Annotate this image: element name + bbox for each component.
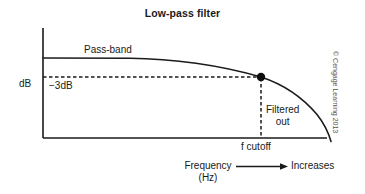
frequency-arrow-head-icon (280, 163, 288, 170)
response-curve (43, 58, 331, 142)
minus-3db-label: −3dB (49, 80, 73, 91)
f-cutoff-label: f cutoff (241, 141, 271, 152)
increases-label: Increases (291, 160, 334, 171)
x-axis-label: Frequency (Hz) (182, 160, 234, 184)
pass-band-label: Pass-band (84, 44, 132, 55)
filtered-out-label: Filtered out (266, 104, 299, 127)
copyright-notice: © Cengage Learning 2013 (331, 51, 339, 133)
cutoff-point-marker (257, 73, 265, 81)
low-pass-filter-figure: Low-pass filter Pass-band dB −3dB Filter… (0, 0, 365, 194)
y-axis-label: dB (19, 78, 31, 89)
page-title: Low-pass filter (0, 8, 365, 20)
